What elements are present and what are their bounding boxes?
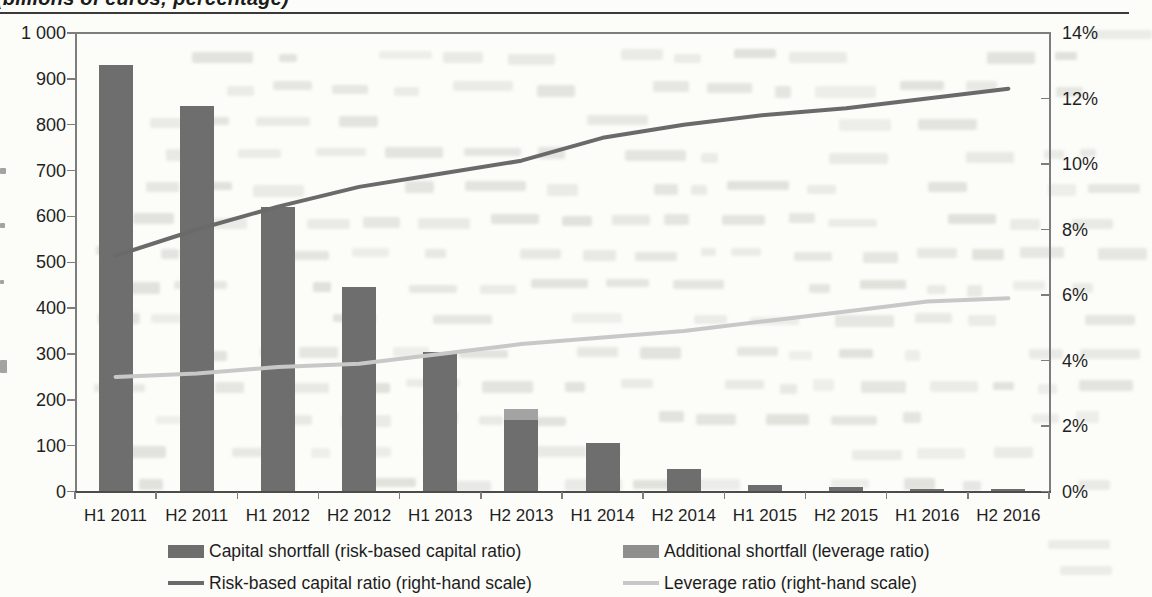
ghost-text-blob <box>1085 315 1135 324</box>
left-axis-tick-label: 800 <box>6 115 66 135</box>
x-axis-label: H1 2016 <box>886 506 968 526</box>
page-rule <box>0 12 1129 14</box>
left-axis-tick <box>67 78 75 80</box>
leverage-ratio-line <box>116 298 1009 377</box>
left-axis-tick-label: 700 <box>6 161 66 181</box>
left-axis-tick <box>67 216 75 218</box>
legend-swatch-leverage-ratio <box>623 581 659 585</box>
right-axis-tick <box>1041 360 1049 362</box>
x-axis-tick <box>967 492 969 499</box>
left-axis-tick-label: 0 <box>6 482 66 502</box>
x-axis-label: H2 2014 <box>643 506 725 526</box>
legend-label-capital-shortfall: Capital shortfall (risk-based capital ra… <box>209 540 521 562</box>
right-axis-tick <box>1041 163 1049 165</box>
x-axis-label: H2 2012 <box>318 506 400 526</box>
x-axis-label: H1 2014 <box>562 506 644 526</box>
ghost-text-blob <box>1079 380 1133 391</box>
right-axis-tick <box>1041 229 1049 231</box>
right-axis-tick-label: 12% <box>1062 89 1122 109</box>
x-axis-tick <box>561 492 563 499</box>
x-axis-tick <box>805 492 807 499</box>
left-axis-tick-label: 400 <box>6 298 66 318</box>
plot-top-border <box>75 32 1049 34</box>
legend-swatch-additional-shortfall <box>623 545 659 558</box>
chart-units-caption: (billions of euros; percentage) <box>0 0 289 9</box>
x-axis-label: H2 2011 <box>156 506 238 526</box>
x-axis-tick <box>318 492 320 499</box>
left-axis-tick-label: 500 <box>6 252 66 272</box>
x-axis-line <box>75 491 1051 493</box>
right-axis-tick-label: 0% <box>1062 482 1122 502</box>
gutter-speck <box>0 280 4 284</box>
ghost-text-blob <box>1060 566 1112 575</box>
right-axis-tick <box>1041 98 1049 100</box>
left-axis-tick <box>67 262 75 264</box>
x-axis-tick <box>724 492 726 499</box>
left-axis-tick <box>67 353 75 355</box>
right-axis-line <box>1049 32 1051 493</box>
left-axis-line <box>75 32 77 493</box>
x-axis-tick <box>237 492 239 499</box>
legend-label-risk-based-capital-ratio: Risk-based capital ratio (right-hand sca… <box>209 572 532 594</box>
ghost-text-blob <box>1088 184 1140 193</box>
x-axis-label: H2 2016 <box>967 506 1049 526</box>
left-axis-tick-label: 900 <box>6 69 66 89</box>
legend-label-additional-shortfall: Additional shortfall (leverage ratio) <box>664 540 930 562</box>
x-axis-label: H1 2013 <box>399 506 481 526</box>
right-axis-tick <box>1041 425 1049 427</box>
left-axis-tick-label: 100 <box>6 436 66 456</box>
right-axis-tick <box>1041 32 1049 34</box>
x-axis-label: H1 2011 <box>75 506 157 526</box>
left-axis-tick-label: 1 000 <box>6 23 66 43</box>
x-axis-label: H1 2015 <box>724 506 806 526</box>
left-axis-tick-label: 200 <box>6 390 66 410</box>
left-axis-tick <box>67 32 75 34</box>
left-axis-tick <box>67 124 75 126</box>
left-axis-tick <box>67 445 75 447</box>
left-axis-tick <box>67 170 75 172</box>
legend-swatch-risk-based-capital-ratio <box>168 581 204 585</box>
right-axis-tick-label: 10% <box>1062 154 1122 174</box>
x-axis-tick <box>399 492 401 499</box>
x-axis-tick <box>480 492 482 499</box>
x-axis-label: H2 2015 <box>805 506 887 526</box>
x-axis-label: H2 2013 <box>480 506 562 526</box>
left-axis-tick <box>67 307 75 309</box>
right-axis-tick-label: 2% <box>1062 416 1122 436</box>
left-axis-tick-label: 300 <box>6 344 66 364</box>
right-axis-tick <box>1041 294 1049 296</box>
right-axis-tick-label: 4% <box>1062 351 1122 371</box>
gutter-speck <box>0 223 5 228</box>
left-axis-tick <box>67 399 75 401</box>
ghost-text-blob <box>1048 184 1076 196</box>
x-axis-tick <box>1048 492 1050 499</box>
legend-swatch-capital-shortfall <box>168 545 204 558</box>
x-axis-label: H1 2012 <box>237 506 319 526</box>
legend-label-leverage-ratio: Leverage ratio (right-hand scale) <box>664 572 917 594</box>
x-axis-tick <box>155 492 157 499</box>
x-axis-tick <box>642 492 644 499</box>
right-axis-tick-label: 6% <box>1062 285 1122 305</box>
ratio-lines-layer <box>75 32 1050 494</box>
left-axis-tick-label: 600 <box>6 206 66 226</box>
ghost-text-blob <box>1098 248 1147 260</box>
x-axis-tick <box>886 492 888 499</box>
risk-based-capital-ratio-line <box>116 89 1009 256</box>
right-axis-tick-label: 8% <box>1062 220 1122 240</box>
ghost-text-blob <box>1055 52 1076 61</box>
right-axis-tick-label: 14% <box>1062 23 1122 43</box>
ghost-text-blob <box>1048 540 1110 549</box>
x-axis-tick <box>74 492 76 499</box>
